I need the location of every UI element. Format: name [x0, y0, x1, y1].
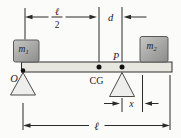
label-pivot: P — [112, 51, 119, 62]
label-d: d — [108, 12, 114, 23]
mass1-label-subscript: 1 — [25, 48, 28, 55]
label-half-length-numerator: ℓ — [55, 6, 59, 17]
label-x: x — [128, 98, 134, 109]
origin-point-dot — [21, 68, 26, 73]
label-half-length-denominator: 2 — [55, 20, 60, 30]
physics-beam-figure: ℓ 2 d m1 m2 O CG P x ℓ — [0, 0, 181, 138]
label-full-length: ℓ — [94, 120, 99, 132]
label-origin: O — [10, 73, 18, 84]
beam-diagram-svg: ℓ 2 d m1 m2 O CG P x ℓ — [0, 0, 181, 138]
cg-point-dot — [97, 65, 102, 70]
pivot-point-dot — [120, 65, 125, 70]
label-cg: CG — [90, 75, 104, 86]
